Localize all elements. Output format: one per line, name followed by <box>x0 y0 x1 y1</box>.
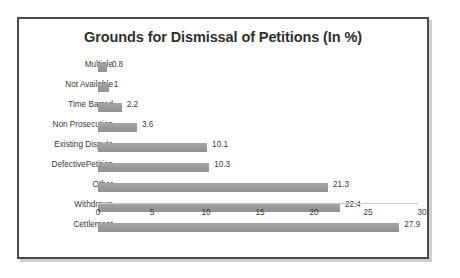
bar-track: 10.1 <box>98 137 431 157</box>
x-tick-label: 10 <box>201 208 210 217</box>
chart-title: Grounds for Dismissal of Petitions (In %… <box>19 29 427 45</box>
x-tick-label: 30 <box>417 208 426 217</box>
bar-track: 3.6 <box>98 117 431 137</box>
x-tick-label: 20 <box>309 208 318 217</box>
bar[interactable] <box>98 123 137 132</box>
bar-value-label: 1 <box>114 80 119 89</box>
bar-row: Not Available1 <box>19 77 431 97</box>
category-label: DefectivePetition <box>0 160 113 169</box>
bar-row: Multiple0.8 <box>19 57 431 77</box>
bar[interactable] <box>98 83 109 92</box>
bar-track: 1 <box>98 77 431 97</box>
bar[interactable] <box>98 183 328 192</box>
bar-row: Existing Dispute10.1 <box>19 137 431 157</box>
category-label: Non Prosecution <box>0 120 113 129</box>
category-label: Not Available <box>0 80 113 89</box>
x-tick-label: 25 <box>363 208 372 217</box>
category-label: Multiple <box>0 60 113 69</box>
category-label: Time Barred <box>0 100 113 109</box>
category-label: Existing Dispute <box>0 140 113 149</box>
category-label: Cettlement <box>0 220 113 229</box>
bar-row: Non Prosecution3.6 <box>19 117 431 137</box>
bar-row: DefectivePetition10.3 <box>19 157 431 177</box>
bar[interactable] <box>98 143 207 152</box>
bar-value-label: 10.1 <box>212 140 228 149</box>
bar-row: Time Barred2.2 <box>19 97 431 117</box>
x-axis-tick-labels: 051015202530 <box>98 208 427 224</box>
bar[interactable] <box>98 163 209 172</box>
chart-frame: Grounds for Dismissal of Petitions (In %… <box>17 17 429 259</box>
category-label: Other <box>0 180 113 189</box>
bar-track: 0.8 <box>98 57 431 77</box>
bar[interactable] <box>98 63 107 72</box>
x-tick-label: 5 <box>150 208 155 217</box>
bar-track: 2.2 <box>98 97 431 117</box>
bar-row: Other21.3 <box>19 177 431 197</box>
bar-value-label: 3.6 <box>142 120 153 129</box>
bar-value-label: 10.3 <box>214 160 230 169</box>
bar-value-label: 2.2 <box>127 100 138 109</box>
x-tick-label: 15 <box>255 208 264 217</box>
bar-value-label: 0.8 <box>112 60 123 69</box>
x-tick-label: 0 <box>96 208 101 217</box>
plot-area: Multiple0.8Not Available1Time Barred2.2N… <box>19 55 431 261</box>
bar-track: 21.3 <box>98 177 431 197</box>
bar[interactable] <box>98 103 122 112</box>
bar-value-label: 21.3 <box>333 180 349 189</box>
x-axis-line <box>98 203 418 204</box>
bar-track: 10.3 <box>98 157 431 177</box>
